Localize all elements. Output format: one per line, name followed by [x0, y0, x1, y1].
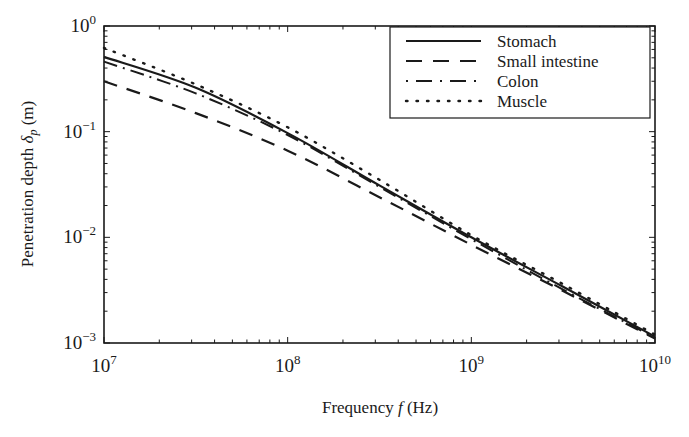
- x-tick-label: 108: [275, 352, 301, 376]
- x-axis-title: Frequency f (Hz): [322, 398, 438, 417]
- y-tick-label: 10−2: [63, 223, 96, 247]
- y-tick-labels: 10010−110−210−3: [63, 12, 96, 353]
- penetration-depth-chart: 1071081091010 10010−110−210−3 Frequency …: [0, 0, 689, 437]
- x-tick-labels: 1071081091010: [91, 352, 671, 376]
- series-line-small-intestine: [104, 81, 655, 338]
- y-tick-label: 10−1: [63, 118, 96, 142]
- legend: StomachSmall intestineColonMuscle: [390, 27, 650, 118]
- legend-label: Small intestine: [497, 52, 599, 71]
- x-tick-label: 109: [459, 352, 485, 376]
- legend-label: Stomach: [497, 32, 557, 51]
- y-tick-label: 100: [71, 12, 97, 36]
- y-axis-title: Penetration depth δp (m): [18, 101, 40, 267]
- legend-label: Colon: [497, 72, 539, 91]
- y-tick-label: 10−3: [63, 329, 96, 353]
- legend-label: Muscle: [497, 92, 547, 111]
- x-tick-label: 107: [91, 352, 117, 376]
- x-tick-label: 1010: [639, 352, 671, 376]
